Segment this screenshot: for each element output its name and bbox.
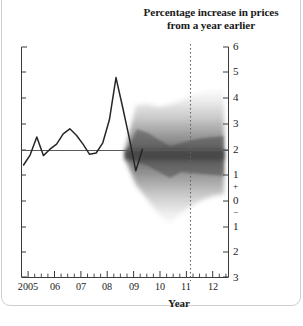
y-tick-label-1: 1 (233, 169, 249, 180)
y-tick-label-0: 0 (233, 195, 249, 206)
x-tick-label-2011: 11 (171, 282, 201, 292)
y-tick-label-2: 2 (233, 144, 249, 155)
price-increase-line (24, 78, 143, 171)
x-tick-label-2012: 12 (198, 282, 228, 292)
y-tick-label-6: 6 (233, 41, 249, 52)
chart-figure: Percentage increase in prices from a yea… (0, 0, 303, 326)
y-tick-label-4: 4 (233, 92, 249, 103)
y-tick-label-5: 5 (233, 66, 249, 77)
y-tick-label-neg-2: 2 (233, 246, 249, 257)
y-tick-label-neg-1: 1 (233, 221, 249, 232)
x-tick-label-2008: 08 (92, 282, 122, 292)
y-sign-minus: − (233, 208, 249, 217)
y-tick-label-neg-3: 3 (233, 272, 249, 283)
y-sign-plus: + (233, 182, 249, 191)
x-axis-label: Year (168, 297, 190, 309)
y-tick-label-3: 3 (233, 118, 249, 129)
chart-plot-area (0, 0, 303, 326)
x-axis (22, 271, 229, 278)
x-tick-label-2005: 2005 (13, 282, 43, 292)
